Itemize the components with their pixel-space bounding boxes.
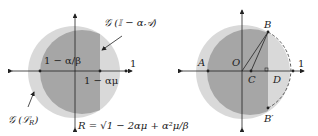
point-1-minus-alphamu <box>99 70 102 73</box>
point-c <box>250 70 253 73</box>
radius-formula: R = √1 − 2αμ + α²μ/β <box>77 120 189 131</box>
left-diagram: 𝒢 (𝕀 − α𝒜) 1 − α/β 1 − αμ 1 𝒢 (ℒR) R = √… <box>8 14 189 131</box>
point-a <box>207 70 210 73</box>
label-o: O <box>232 57 240 68</box>
point-b-prime <box>267 107 270 110</box>
point-one <box>125 70 128 73</box>
label-b: B <box>263 19 271 30</box>
point-b <box>267 31 270 34</box>
point-one-right <box>292 70 295 73</box>
label-g-i-alpha-a: 𝒢 (𝕀 − α𝒜) <box>104 17 157 28</box>
label-b-prime: B′ <box>263 113 274 124</box>
diagram-canvas: 𝒢 (𝕀 − α𝒜) 1 − α/β 1 − αμ 1 𝒢 (ℒR) R = √… <box>0 0 318 136</box>
label-one: 1 <box>130 58 136 69</box>
label-c: C <box>248 74 256 85</box>
right-diagram: A O B B′ C D 1 <box>182 10 304 128</box>
label-a: A <box>197 57 205 68</box>
label-1-alpha-beta: 1 − α/β <box>44 55 81 66</box>
label-g-lr: 𝒢 (ℒR) <box>8 114 38 127</box>
label-one-right: 1 <box>298 58 304 69</box>
pointer-arrow-bottom <box>28 92 34 107</box>
label-1-alpha-mu: 1 − αμ <box>84 75 119 86</box>
point-left <box>39 70 42 73</box>
label-d: D <box>272 74 281 85</box>
